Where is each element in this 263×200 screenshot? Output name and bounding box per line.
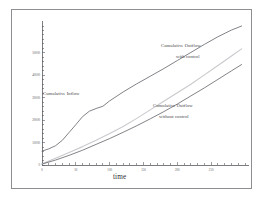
series-line bbox=[42, 49, 242, 164]
plot-area: 0501001502002500100002000030000400005000… bbox=[12, 10, 253, 190]
x-tick-label: 100 bbox=[100, 168, 120, 172]
y-tick-label: 10000 bbox=[20, 141, 40, 145]
x-tick-label: 200 bbox=[167, 168, 187, 172]
x-tick-label: 250 bbox=[201, 168, 221, 172]
cumulative-outflow-with-control-line-2: with control bbox=[175, 54, 201, 59]
cumulative-inflow-label-line-1: Cumulative Inflow bbox=[43, 91, 80, 96]
series-line bbox=[42, 26, 242, 151]
y-tick-label: 30000 bbox=[20, 96, 40, 100]
x-tick-label: 150 bbox=[134, 168, 154, 172]
chart-canvas bbox=[12, 10, 253, 190]
y-tick-label: 40000 bbox=[20, 73, 40, 77]
x-axis-title: time bbox=[113, 173, 126, 181]
y-tick-label: 50000 bbox=[20, 51, 40, 55]
cumulative-outflow-without-control-line-2: without control bbox=[155, 114, 193, 119]
cumulative-outflow-without-control-label: Cumulative Outflow without control bbox=[153, 103, 193, 119]
cumulative-outflow-without-control-line-1: Cumulative Outflow bbox=[153, 103, 193, 108]
x-tick-label: 50 bbox=[66, 168, 86, 172]
figure-frame: 0501001502002500100002000030000400005000… bbox=[11, 9, 252, 189]
x-tick-label: 0 bbox=[32, 168, 52, 172]
chart-screenshot: 0501001502002500100002000030000400005000… bbox=[0, 0, 263, 200]
y-tick-label: 20000 bbox=[20, 118, 40, 122]
y-tick-label: 0 bbox=[20, 163, 40, 167]
cumulative-inflow-label: Cumulative Inflow bbox=[43, 91, 80, 96]
cumulative-outflow-with-control-line-1: Cumulative Outflow bbox=[161, 43, 201, 48]
cumulative-outflow-with-control-label: Cumulative Outflow with control bbox=[161, 43, 201, 59]
series-line bbox=[42, 65, 242, 165]
